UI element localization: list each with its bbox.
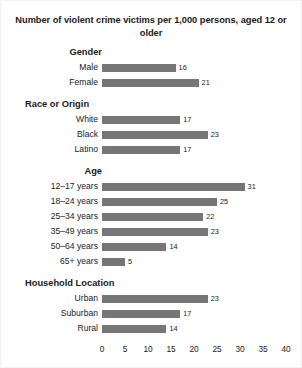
bar-group-heading: Age — [1, 164, 102, 179]
x-axis-tick-label: 0 — [100, 344, 105, 354]
bar-track: 16 — [102, 60, 302, 75]
bar-track: 14 — [102, 321, 302, 336]
bar-fill — [102, 183, 245, 191]
bar-row[interactable]: Male16 — [1, 60, 302, 75]
bar-row[interactable]: 25–34 years22 — [1, 209, 302, 224]
plot-area: GenderMale16Female21Race or OriginWhite1… — [1, 45, 302, 357]
bar-fill — [102, 131, 208, 139]
bar-value-label: 5 — [128, 257, 132, 266]
bar-fill — [102, 198, 217, 206]
bar-category-label: 65+ years — [1, 256, 102, 267]
bar-group: GenderMale16Female21 — [1, 45, 302, 90]
bar-row[interactable]: Latino17 — [1, 142, 302, 157]
x-axis-ticks: 0510152025303540 — [102, 341, 302, 357]
bar-category-label: Rural — [1, 323, 102, 334]
x-axis-tick-label: 25 — [212, 344, 221, 354]
bar-category-label: White — [1, 114, 102, 125]
bar-fill — [102, 146, 180, 154]
chart-figure: Number of violent crime victims per 1,00… — [0, 0, 302, 368]
bar-fill — [102, 116, 180, 124]
bar-fill — [102, 213, 203, 221]
bar-fill — [102, 64, 176, 72]
bar-row[interactable]: White17 — [1, 112, 302, 127]
bar-group: Age12–17 years3118–24 years2525–34 years… — [1, 164, 302, 269]
bar-row[interactable]: 12–17 years31 — [1, 179, 302, 194]
x-axis-tick-label: 40 — [281, 344, 290, 354]
x-axis-tick-label: 20 — [189, 344, 198, 354]
x-axis-tick-label: 35 — [258, 344, 267, 354]
bar-track: 23 — [102, 127, 302, 142]
bar-category-label: 12–17 years — [1, 181, 102, 192]
bar-category-label: Latino — [1, 144, 102, 155]
chart-title: Number of violent crime victims per 1,00… — [11, 14, 291, 39]
bar-category-label: 25–34 years — [1, 211, 102, 222]
bar-value-label: 23 — [211, 130, 219, 139]
bar-track: 17 — [102, 306, 302, 321]
bar-fill — [102, 295, 208, 303]
bar-row[interactable]: 35–49 years23 — [1, 224, 302, 239]
bar-value-label: 22 — [206, 212, 214, 221]
bar-category-label: Black — [1, 129, 102, 140]
bar-track: 31 — [102, 179, 302, 194]
bar-track: 17 — [102, 112, 302, 127]
bar-row[interactable]: Urban23 — [1, 291, 302, 306]
bar-value-label: 17 — [183, 145, 191, 154]
x-axis-tick-label: 5 — [123, 344, 128, 354]
bar-track: 14 — [102, 239, 302, 254]
bar-fill — [102, 258, 125, 266]
bar-row[interactable]: 18–24 years25 — [1, 194, 302, 209]
bar-category-label: Suburban — [1, 308, 102, 319]
bar-track: 23 — [102, 224, 302, 239]
x-axis-tick-label: 10 — [143, 344, 152, 354]
bar-fill — [102, 310, 180, 318]
bar-row[interactable]: Suburban17 — [1, 306, 302, 321]
bar-group-heading: Race or Origin — [1, 97, 141, 112]
bar-fill — [102, 243, 166, 251]
bar-value-label: 16 — [179, 63, 187, 72]
bar-fill — [102, 325, 166, 333]
bar-value-label: 17 — [183, 115, 191, 124]
bar-track: 22 — [102, 209, 302, 224]
bar-row[interactable]: Female21 — [1, 75, 302, 90]
bar-group: Race or OriginWhite17Black23Latino17 — [1, 97, 302, 157]
bar-category-label: 50–64 years — [1, 241, 102, 252]
bar-category-label: Urban — [1, 293, 102, 304]
bar-fill — [102, 228, 208, 236]
bar-track: 5 — [102, 254, 302, 269]
bar-category-label: 18–24 years — [1, 196, 102, 207]
bar-value-label: 14 — [169, 324, 177, 333]
bar-track: 17 — [102, 142, 302, 157]
bar-track: 21 — [102, 75, 302, 90]
group-spacer — [1, 269, 302, 276]
bar-category-label: Male — [1, 62, 102, 73]
bar-value-label: 17 — [183, 309, 191, 318]
bar-row[interactable]: Rural14 — [1, 321, 302, 336]
bar-group-heading: Gender — [1, 45, 102, 60]
bar-row[interactable]: 50–64 years14 — [1, 239, 302, 254]
bar-value-label: 21 — [202, 78, 210, 87]
x-axis-tick-label: 30 — [235, 344, 244, 354]
group-spacer — [1, 90, 302, 97]
bar-category-label: Female — [1, 77, 102, 88]
bar-value-label: 31 — [248, 182, 256, 191]
bar-value-label: 23 — [211, 294, 219, 303]
bar-row[interactable]: Black23 — [1, 127, 302, 142]
x-axis-tick-label: 15 — [166, 344, 175, 354]
bar-value-label: 23 — [211, 227, 219, 236]
bar-group: Household LocationUrban23Suburban17Rural… — [1, 276, 302, 336]
bar-fill — [102, 79, 199, 87]
bar-category-label: 35–49 years — [1, 226, 102, 237]
bar-value-label: 25 — [220, 197, 228, 206]
bar-track: 23 — [102, 291, 302, 306]
bar-row[interactable]: 65+ years5 — [1, 254, 302, 269]
bar-track: 25 — [102, 194, 302, 209]
bar-value-label: 14 — [169, 242, 177, 251]
group-spacer — [1, 157, 302, 164]
bar-group-heading: Household Location — [1, 276, 141, 291]
